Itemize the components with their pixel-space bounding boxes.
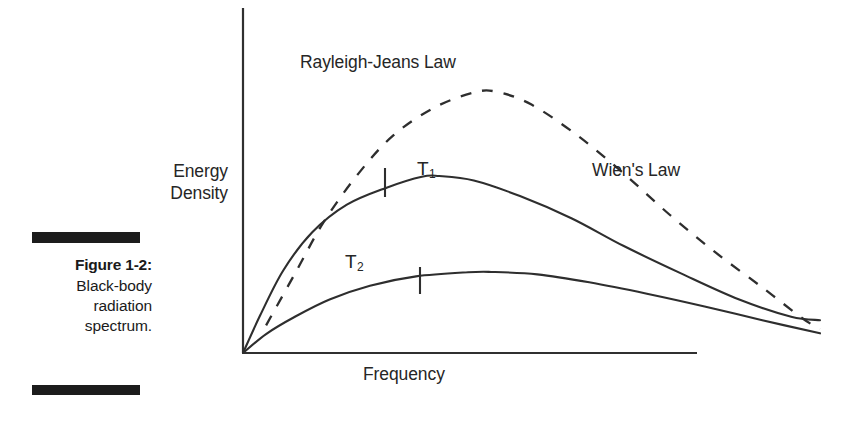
x-axis-label: Frequency [363,364,445,385]
y-axis-label: Energy Density [80,160,228,205]
t2-label-symbol: T [345,251,357,272]
t2-label-subscript: 2 [357,260,364,274]
t2-label: T2 [345,251,363,273]
t1-label: T1 [417,158,435,180]
figure-container: Figure 1-2: Black-body radiation spectru… [0,0,862,425]
t1-curve [243,175,820,353]
rayleigh-jeans-law-label: Rayleigh-Jeans Law [300,52,456,73]
y-axis-label-line-2: Density [80,182,228,204]
t1-label-subscript: 1 [429,167,436,181]
wien-law-label: Wien's Law [592,160,680,181]
t2-curve [243,272,820,353]
y-axis-label-line-1: Energy [80,160,228,182]
t1-label-symbol: T [417,158,429,179]
